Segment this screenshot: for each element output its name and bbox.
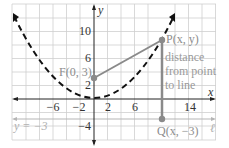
y-tick-6: 6	[85, 51, 91, 65]
point-q	[159, 116, 165, 122]
y-axis-label: y	[97, 3, 104, 17]
x-tick-neg6: −6	[47, 100, 60, 114]
directrix-label: y = −3	[13, 119, 48, 133]
x-tick-neg2: −2	[73, 100, 86, 114]
distance-label-line1: distance	[165, 50, 204, 64]
distance-label-line2: from point	[165, 64, 217, 78]
point-q-label: Q(x, −3)	[157, 124, 198, 138]
focus-point	[91, 75, 97, 81]
focus-label: F(0, 3)	[59, 65, 92, 79]
point-p	[159, 37, 165, 43]
x-tick-2: 2	[105, 100, 111, 114]
distance-label-line3: to line	[165, 78, 195, 92]
y-tick-neg4: −4	[78, 119, 91, 133]
x-axis-label: x	[207, 85, 214, 99]
point-p-label: P(x, y)	[166, 32, 199, 46]
parabola-diagram: −6 −2 2 6 14 10 6 2 −4 y x F(0, 3) P(x, …	[0, 0, 229, 148]
x-tick-6: 6	[132, 100, 138, 114]
y-tick-10: 10	[79, 24, 91, 38]
line-ell-label: ℓ	[210, 121, 215, 135]
y-tick-2: 2	[85, 78, 91, 92]
x-tick-14: 14	[184, 100, 196, 114]
